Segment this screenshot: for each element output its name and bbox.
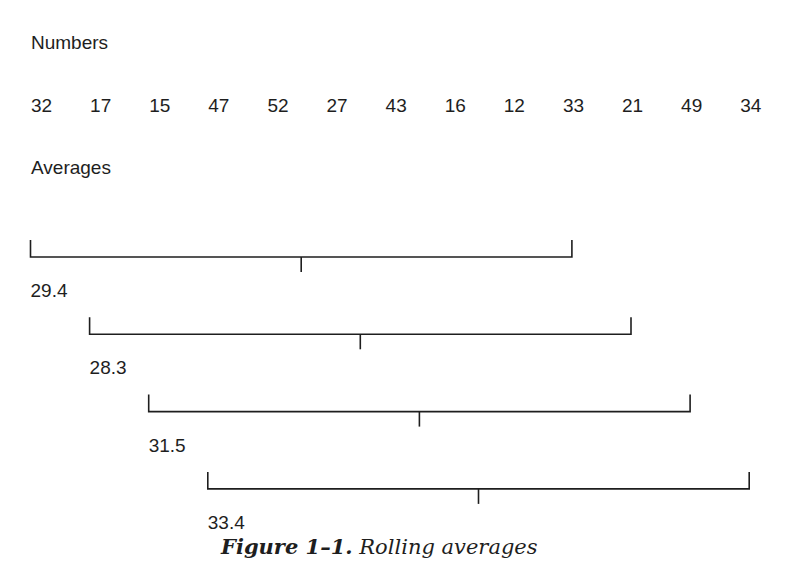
rolling-average-brackets xyxy=(0,0,805,576)
average-value: 28.3 xyxy=(90,358,127,377)
figure-label: Figure 1–1. xyxy=(221,534,353,559)
average-bracket xyxy=(149,395,690,427)
bracket-line xyxy=(90,317,631,334)
average-value: 29.4 xyxy=(31,281,68,300)
average-bracket xyxy=(90,317,631,349)
figure-caption: Figure 1–1. Rolling averages xyxy=(221,534,538,559)
average-bracket xyxy=(208,472,749,504)
average-bracket xyxy=(31,240,572,272)
bracket-line xyxy=(31,240,572,257)
figure-title: Rolling averages xyxy=(359,535,537,559)
bracket-line xyxy=(208,472,749,489)
bracket-line xyxy=(149,395,690,412)
average-value: 31.5 xyxy=(149,436,186,455)
average-value: 33.4 xyxy=(208,513,245,532)
